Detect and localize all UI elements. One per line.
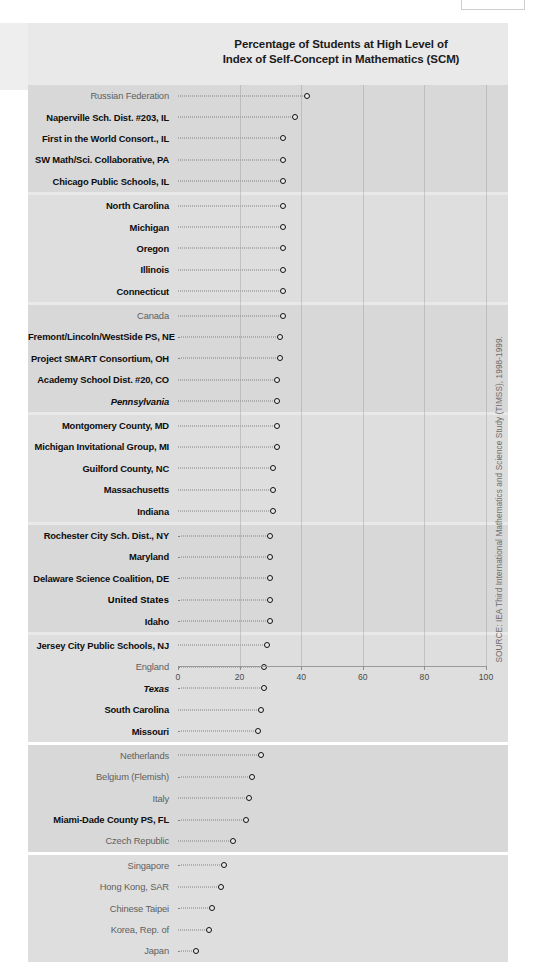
table-row[interactable]: Canada [28,305,508,326]
data-point-marker[interactable] [277,355,283,361]
data-point-marker[interactable] [280,203,286,209]
data-point-marker[interactable] [270,508,276,514]
data-point-marker[interactable] [264,642,270,648]
axis-tick [363,666,364,670]
table-row[interactable]: Russian Federation [28,85,508,106]
row-label: Chicago Public Schools, IL [28,176,178,187]
table-row[interactable]: Naperville Sch. Dist. #203, IL [28,106,508,127]
row-plot-area [178,940,508,961]
data-point-marker[interactable] [267,597,273,603]
row-label: Maryland [28,551,178,562]
table-row[interactable]: Japan [28,940,508,961]
data-point-marker[interactable] [280,135,286,141]
table-row[interactable]: Project SMART Consortium, OH [28,348,508,369]
row-plot-area [178,259,508,280]
table-row[interactable]: Maryland [28,546,508,567]
data-point-marker[interactable] [267,533,273,539]
data-point-marker[interactable] [193,948,199,954]
table-row[interactable]: South Carolina [28,699,508,720]
row-plot-area [178,458,508,479]
data-point-marker[interactable] [267,618,273,624]
table-row[interactable]: Illinois [28,259,508,280]
data-point-marker[interactable] [277,334,283,340]
data-point-marker[interactable] [261,685,267,691]
data-point-marker[interactable] [280,178,286,184]
data-point-marker[interactable] [209,905,215,911]
data-point-marker[interactable] [249,774,255,780]
data-point-marker[interactable] [280,267,286,273]
table-row[interactable]: Italy [28,788,508,809]
table-row[interactable]: Delaware Science Coalition, DE [28,568,508,589]
leader-line [178,578,270,579]
table-row[interactable]: Fremont/Lincoln/WestSide PS, NE [28,326,508,347]
data-point-marker[interactable] [267,575,273,581]
data-point-marker[interactable] [255,728,261,734]
data-point-marker[interactable] [304,93,310,99]
leader-line [178,731,258,732]
table-row[interactable]: Connecticut [28,281,508,302]
table-row[interactable]: Idaho [28,610,508,631]
table-row[interactable]: Michigan [28,216,508,237]
table-row[interactable]: Oregon [28,238,508,259]
leader-line [178,446,277,447]
data-point-marker[interactable] [274,423,280,429]
table-row[interactable]: Pennsylvania [28,390,508,411]
row-label: Russian Federation [28,90,178,101]
table-row[interactable]: United States [28,589,508,610]
table-row[interactable]: Miami-Dade County PS, FL [28,809,508,830]
data-point-marker[interactable] [221,862,227,868]
data-point-marker[interactable] [274,444,280,450]
table-row[interactable]: Singapore [28,855,508,876]
table-row[interactable]: Montgomery County, MD [28,415,508,436]
source-note: SOURCE: IEA Third International Mathemat… [495,336,504,663]
data-point-marker[interactable] [280,313,286,319]
table-row[interactable]: Korea, Rep. of [28,919,508,940]
row-label: Czech Republic [28,835,178,846]
table-row[interactable]: Chinese Taipei [28,897,508,918]
row-plot-area [178,897,508,918]
row-label: Connecticut [28,286,178,297]
data-point-marker[interactable] [292,114,298,120]
table-row[interactable]: Massachusetts [28,479,508,500]
table-row[interactable]: Missouri [28,720,508,741]
table-row[interactable]: First in the World Consort., IL [28,128,508,149]
table-row[interactable]: North Carolina [28,195,508,216]
data-point-marker[interactable] [258,707,264,713]
data-point-marker[interactable] [267,554,273,560]
row-plot-area [178,436,508,457]
table-row[interactable]: Czech Republic [28,830,508,851]
row-label: Illinois [28,264,178,275]
data-point-marker[interactable] [280,224,286,230]
table-row[interactable]: Hong Kong, SAR [28,876,508,897]
table-row[interactable]: Chicago Public Schools, IL [28,171,508,192]
table-row[interactable]: Netherlands [28,745,508,766]
table-row[interactable]: Indiana [28,500,508,521]
data-point-marker[interactable] [258,752,264,758]
data-point-marker[interactable] [206,927,212,933]
data-point-marker[interactable] [218,884,224,890]
row-label: Oregon [28,243,178,254]
data-point-marker[interactable] [270,465,276,471]
row-plot-area [178,171,508,192]
row-plot-area [178,699,508,720]
chart-panel: Percentage of Students at High Level of … [28,23,508,700]
data-point-marker[interactable] [280,288,286,294]
data-point-marker[interactable] [280,245,286,251]
data-point-marker[interactable] [270,487,276,493]
table-row[interactable]: SW Math/Sci. Collaborative, PA [28,149,508,170]
row-plot-area [178,106,508,127]
table-row[interactable]: Rochester City Sch. Dist., NY [28,525,508,546]
table-row[interactable]: Michigan Invitational Group, MI [28,436,508,457]
table-row[interactable]: Texas [28,678,508,699]
data-point-marker[interactable] [274,398,280,404]
table-row[interactable]: Academy School Dist. #20, CO [28,369,508,390]
data-point-marker[interactable] [280,157,286,163]
chart-header: Percentage of Students at High Level of … [28,23,508,85]
data-point-marker[interactable] [274,377,280,383]
table-row[interactable]: Guilford County, NC [28,458,508,479]
table-row[interactable]: Jersey City Public Schools, NJ [28,635,508,656]
data-point-marker[interactable] [230,838,236,844]
table-row[interactable]: Belgium (Flemish) [28,766,508,787]
data-point-marker[interactable] [243,817,249,823]
data-point-marker[interactable] [246,795,252,801]
